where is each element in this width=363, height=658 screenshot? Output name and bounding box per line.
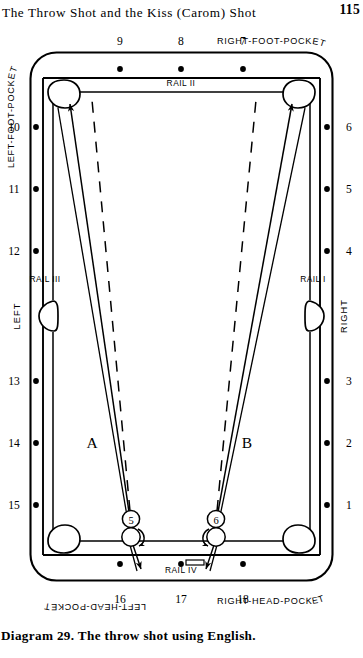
pocket-label-bottom-left-text: LEFT-HEAD-POCKET: [43, 601, 146, 612]
diamond-spot: [324, 440, 330, 446]
diamond-spot: [33, 248, 39, 254]
diamond-spot: [240, 66, 246, 72]
pocket-top-right: [283, 80, 315, 108]
page-canvas: The Throw Shot and the Kiss (Carom) Shot…: [0, 0, 363, 658]
diamond-spot: [240, 561, 246, 567]
page-number: 115: [339, 2, 360, 18]
diamond-number-left: 12: [8, 245, 20, 258]
diamond-spot: [33, 440, 39, 446]
object-ball-6: 6: [207, 510, 224, 527]
diamond-number-left: 15: [8, 499, 20, 512]
object-ball-6-number: 6: [213, 515, 218, 526]
diamond-spot: [178, 66, 184, 72]
diamond-number-right: 3: [346, 375, 352, 388]
rail-label-right: RAIL I: [300, 274, 325, 284]
pocket-label-top-left-text: LEFT-FOOT-POCKET: [6, 64, 19, 168]
diamond-number-left: 13: [8, 375, 20, 388]
diamond-spot: [324, 186, 330, 192]
diamond-spot: [324, 124, 330, 130]
diamond-spot: [33, 186, 39, 192]
billiard-table-diagram: 5 6 RAIL II RAIL IV RAIL III RAIL I: [0, 24, 363, 630]
rail-label-bottom: RAIL IV: [165, 565, 197, 575]
page-title: The Throw Shot and the Kiss (Carom) Shot: [0, 5, 256, 21]
pocket-label-top-right: RIGHT-FOOT-POCKET: [217, 36, 327, 49]
diamond-spot: [117, 561, 123, 567]
side-label-left: LEFT: [12, 303, 22, 330]
cue-ball-a-circle: [122, 528, 140, 546]
diamond-spot: [33, 378, 39, 384]
running-head: The Throw Shot and the Kiss (Carom) Shot: [0, 0, 363, 26]
diamond-number-right: 2: [346, 437, 352, 450]
zone-label-b: B: [242, 434, 252, 451]
diamond-spot: [324, 248, 330, 254]
zone-label-a: A: [86, 434, 98, 451]
diamond-number-right: 1: [346, 499, 352, 512]
rail-label-top: RAIL II: [167, 78, 196, 88]
diamond-number-left: 11: [8, 183, 19, 196]
cue-ball-b-circle: [207, 528, 225, 546]
figure-caption: Diagram 29. The throw shot using English…: [0, 628, 363, 644]
pocket-top-left: [48, 80, 80, 108]
diamond-spot: [324, 378, 330, 384]
diamond-number-top: 8: [178, 35, 184, 48]
pocket-bottom-left: [48, 525, 80, 553]
diamond-number-right: 4: [346, 245, 352, 258]
diamond-number-left: 14: [8, 437, 20, 450]
diamond-number-right: 6: [346, 121, 352, 134]
pocket-label-bottom-right: RIGHT-HEAD-POCKET: [217, 593, 326, 606]
pocket-bottom-right: [283, 525, 315, 553]
object-ball-5-number: 5: [128, 515, 133, 526]
diamond-spot: [33, 124, 39, 130]
diamond-spot: [33, 502, 39, 508]
diamond-spot: [324, 502, 330, 508]
diamond-spot: [117, 66, 123, 72]
diamond-number-right: 5: [346, 183, 352, 196]
rail-label-left: RAIL III: [30, 274, 61, 284]
object-ball-5: 5: [122, 510, 139, 527]
side-label-right: RIGHT: [339, 299, 349, 333]
diamond-number-top: 9: [117, 35, 123, 48]
diamond-number-bottom: 17: [175, 593, 187, 606]
pocket-label-top-left: LEFT-FOOT-POCKET: [6, 64, 19, 168]
pocket-label-top-right-text: RIGHT-FOOT-POCKET: [217, 36, 327, 49]
pocket-label-bottom-left: LEFT-HEAD-POCKET: [43, 601, 146, 612]
pocket-label-bottom-right-text: RIGHT-HEAD-POCKET: [217, 593, 326, 606]
